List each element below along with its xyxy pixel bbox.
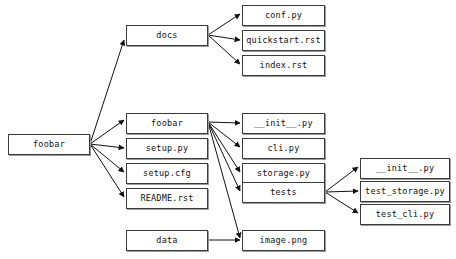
edge-tests-to-testcli (325, 192, 358, 213)
node-data[interactable]: data (126, 230, 208, 251)
node-label: setup.cfg (143, 169, 191, 178)
edge-pkg-to-storage (208, 122, 240, 172)
node-readme[interactable]: README.rst (126, 188, 208, 209)
node-pkg[interactable]: foobar (126, 113, 208, 134)
node-label: README.rst (140, 194, 193, 203)
node-label: storage.py (257, 169, 310, 178)
node-testcli[interactable]: test_cli.py (360, 204, 450, 225)
node-index[interactable]: index.rst (242, 55, 325, 76)
node-root[interactable]: foobar (8, 134, 90, 155)
node-label: test_storage.py (365, 187, 445, 196)
node-label: foobar (33, 140, 65, 149)
node-testsinit[interactable]: __init__.py (360, 158, 450, 179)
edge-pkg-to-cli (208, 122, 240, 147)
edge-root-to-setuppy (90, 144, 124, 148)
edge-tests-to-testsinit (325, 167, 358, 192)
node-storage[interactable]: storage.py (242, 163, 325, 184)
node-label: docs (156, 31, 177, 40)
node-conf[interactable]: conf.py (242, 5, 325, 26)
node-label: data (156, 236, 177, 245)
node-label: __init__.py (376, 164, 435, 173)
node-label: conf.py (265, 11, 302, 20)
node-docs[interactable]: docs (126, 25, 208, 46)
node-imagepng[interactable]: image.png (242, 230, 325, 251)
node-label: test_cli.py (376, 210, 435, 219)
node-label: setup.py (146, 144, 189, 153)
node-pkginit[interactable]: __init__.py (242, 113, 325, 134)
node-teststorage[interactable]: test_storage.py (360, 181, 450, 202)
edge-tests-to-teststorage (325, 191, 358, 192)
node-cli[interactable]: cli.py (242, 138, 325, 159)
edge-root-to-readme (90, 144, 124, 197)
edge-root-to-setupcfg (90, 144, 124, 172)
node-label: cli.py (268, 144, 300, 153)
node-label: foobar (151, 119, 183, 128)
edge-root-to-docs (90, 40, 124, 144)
edge-root-to-pkg (90, 120, 124, 144)
edge-pkg-to-pkginit (208, 122, 240, 123)
node-setuppy[interactable]: setup.py (126, 138, 208, 159)
node-label: index.rst (260, 61, 308, 70)
node-label: image.png (260, 236, 308, 245)
node-quickstart[interactable]: quickstart.rst (242, 30, 325, 51)
node-tests[interactable]: tests (242, 182, 325, 203)
directory-tree-diagram: foobardocsconf.pyquickstart.rstindex.rst… (0, 0, 456, 259)
node-setupcfg[interactable]: setup.cfg (126, 163, 208, 184)
node-label: tests (270, 188, 297, 197)
node-label: quickstart.rst (246, 36, 320, 45)
node-label: __init__.py (254, 119, 313, 128)
edge-docs-to-conf (208, 14, 240, 35)
